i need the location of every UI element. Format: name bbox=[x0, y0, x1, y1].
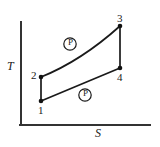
y-axis-label: T bbox=[7, 60, 14, 72]
process-2-3-edge bbox=[41, 26, 120, 77]
state-marker-1 bbox=[39, 99, 44, 104]
state-label-3: 3 bbox=[117, 13, 123, 24]
state-label-1: 1 bbox=[38, 105, 44, 116]
state-marker-4 bbox=[118, 66, 123, 71]
state-label-4: 4 bbox=[117, 72, 123, 83]
diagram-canvas bbox=[0, 0, 160, 147]
ts-diagram-figure: T S 1 2 3 4 P P bbox=[0, 0, 160, 147]
x-axis-label: S bbox=[95, 127, 101, 139]
state-label-2: 2 bbox=[31, 70, 37, 81]
state-marker-3 bbox=[118, 24, 123, 29]
state-marker-2 bbox=[39, 75, 44, 80]
process-label-upper: P bbox=[64, 38, 77, 47]
process-label-lower: P bbox=[79, 89, 92, 98]
